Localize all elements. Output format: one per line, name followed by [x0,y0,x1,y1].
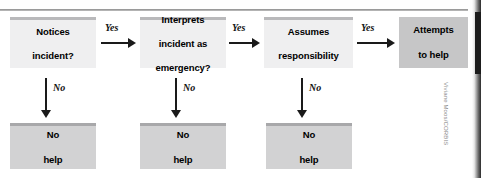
arrow-shaft [175,78,177,111]
flow-box-interprets-line2: incident as [153,38,214,50]
no-help-3-line2: help [296,154,321,166]
arrow-head [41,110,51,118]
edge-label-no-2: No [183,82,195,93]
arrow-head [128,38,136,48]
flow-box-no-help-3-text: Nohelp [293,129,324,165]
flow-box-interprets-line1: Interprets [153,14,214,26]
arrow-shaft [357,42,388,44]
flow-box-assumes-line2: responsibility [275,50,341,62]
edge-label-yes-3: Yes [361,22,374,33]
flow-box-notices: Noticesincident? [10,17,96,68]
arrow-shaft [229,42,253,44]
arrow-head [297,110,307,118]
flow-box-interprets-text: Interpretsincident asemergency? [150,14,217,75]
flow-box-notices-line1: Notices [29,26,76,38]
flow-box-assumes-text: Assumesresponsibility [272,26,344,62]
bystander-intervention-flowchart: Noticesincident? Interpretsincident asem… [0,0,481,178]
page-edge-strip-dark [475,12,481,74]
flow-box-assumes-line1: Assumes [275,26,341,38]
flow-box-no-help-3: Nohelp [266,123,352,169]
flow-box-attempts-line1: Attempts [410,24,456,36]
no-help-3-line1: No [296,129,321,141]
edge-label-yes-1: Yes [105,22,118,33]
arrow-no-assumes-to-nohelp [297,78,308,118]
flow-box-notices-text: Noticesincident? [26,26,79,62]
edge-label-no-1: No [53,82,65,93]
edge-label-no-3: No [309,82,321,93]
arrow-shaft [45,78,47,111]
arrow-shaft [301,78,303,111]
arrow-head [171,110,181,118]
no-help-2-line1: No [170,129,195,141]
no-help-1-line2: help [40,154,65,166]
flow-box-interprets-line3: emergency? [153,62,214,74]
flow-box-attempts-to-help: Attemptsto help [399,17,468,68]
arrow-yes-interprets-to-assumes [229,38,260,49]
arrow-shaft [101,42,129,44]
top-divider-rule [0,9,468,11]
flow-box-no-help-2: Nohelp [140,123,226,169]
photo-credit: Viviane Moos/CORBIS [443,82,449,145]
flow-box-attempts-line2: to help [410,49,456,61]
flow-box-interprets: Interpretsincident asemergency? [140,17,226,68]
arrow-head [387,38,395,48]
flow-box-notices-line2: incident? [29,50,76,62]
flow-box-no-help-2-text: Nohelp [167,129,198,165]
flow-box-no-help-1-text: Nohelp [37,129,68,165]
arrow-no-notices-to-nohelp [41,78,52,118]
arrow-no-interprets-to-nohelp [171,78,182,118]
no-help-1-line1: No [40,129,65,141]
arrow-head [252,38,260,48]
flow-box-assumes: Assumesresponsibility [264,17,353,68]
arrow-yes-notices-to-interprets [101,38,136,49]
edge-label-yes-2: Yes [232,22,245,33]
no-help-2-line2: help [170,154,195,166]
flow-box-no-help-1: Nohelp [10,123,96,169]
arrow-yes-assumes-to-attempts [357,38,395,49]
flow-box-attempts-to-help-text: Attemptsto help [407,24,459,60]
